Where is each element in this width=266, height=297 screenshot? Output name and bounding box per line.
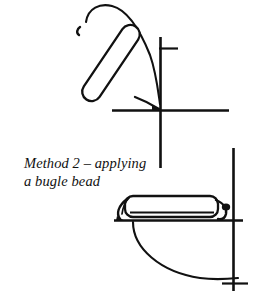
figure-page: Method 2 – applying a bugle bead (0, 0, 266, 297)
beading-diagram (0, 0, 266, 297)
thread-knot-lower-right (222, 203, 230, 210)
figure-caption: Method 2 – applying a bugle bead (24, 154, 154, 190)
bugle-bead-lower-body (125, 196, 218, 217)
